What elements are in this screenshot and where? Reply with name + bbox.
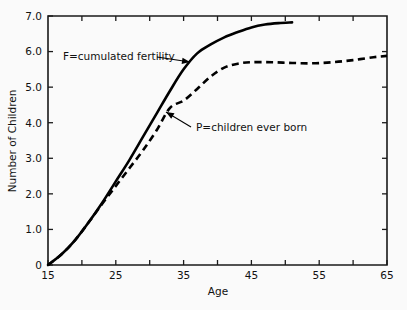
y-axis-title: Number of Children [6, 90, 18, 193]
y-tick-label: 1.0 [25, 223, 42, 235]
annotation-label-F-annotation: F=cumulated fertility [63, 50, 175, 62]
x-tick-label: 15 [41, 269, 54, 281]
chart-canvas: 152535455565 01.02.03.04.05.06.07.0 F=cu… [0, 0, 407, 310]
x-tick-label: 55 [313, 269, 326, 281]
y-tick-label: 2.0 [25, 188, 42, 200]
y-tick-label: 4.0 [25, 117, 42, 129]
x-tick-label: 35 [177, 269, 190, 281]
annotation-label-P-annotation: P=children ever born [196, 121, 307, 133]
y-tick-label: 6.0 [25, 45, 42, 57]
x-tick-label: 45 [245, 269, 258, 281]
x-tick-label: 65 [380, 269, 393, 281]
y-tick-label: 7.0 [25, 10, 42, 22]
y-tick-label: 5.0 [25, 81, 42, 93]
y-tick-label: 0 [35, 259, 42, 271]
y-tick-label: 3.0 [25, 152, 42, 164]
figure-background [0, 0, 407, 310]
x-axis-title: Age [208, 285, 228, 297]
chart-figure: 152535455565 01.02.03.04.05.06.07.0 F=cu… [0, 0, 407, 310]
x-tick-label: 25 [109, 269, 122, 281]
